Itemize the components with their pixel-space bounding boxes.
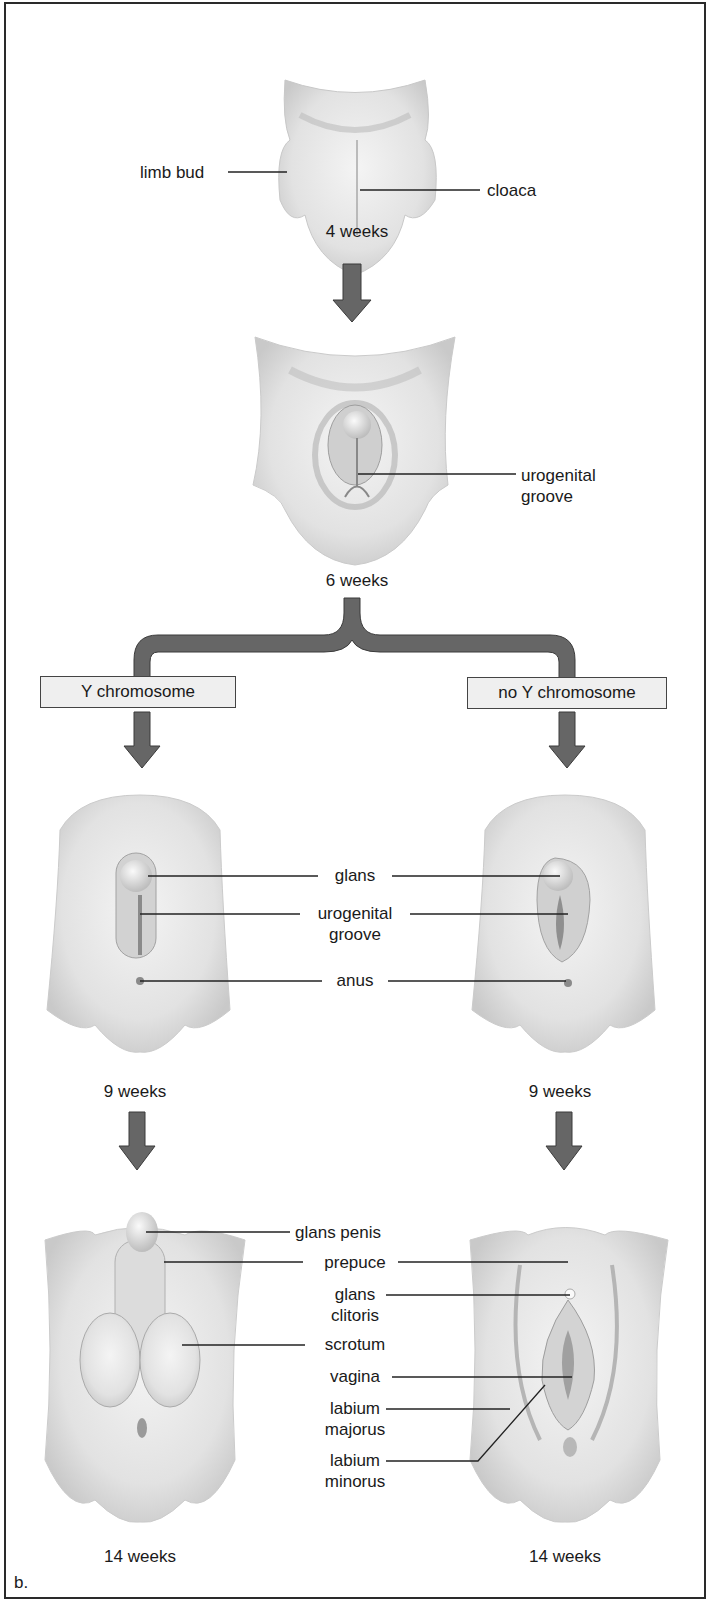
label-labium-majorus: labium majorus [300, 1398, 410, 1440]
down-arrow-icon [119, 1112, 155, 1170]
label-line-2: clitoris [300, 1305, 410, 1326]
label-glans-clitoris: glans clitoris [300, 1284, 410, 1326]
stage-time-9-weeks-female: 9 weeks [505, 1081, 615, 1102]
female-9-weeks-illustration [472, 795, 655, 1052]
label-prepuce: prepuce [300, 1252, 410, 1273]
label-line-2: groove [300, 924, 410, 945]
label-line-2: majorus [300, 1419, 410, 1440]
embryo-4-weeks-illustration [228, 80, 480, 275]
panel-letter: b. [14, 1572, 28, 1593]
stage-time-9-weeks-male: 9 weeks [80, 1081, 190, 1102]
stage-time-6-weeks: 6 weeks [300, 570, 414, 591]
branch-box-y-chromosome: Y chromosome [40, 676, 236, 708]
label-vagina: vagina [300, 1366, 410, 1387]
label-line-1: urogenital [300, 903, 410, 924]
stage-time-4-weeks: 4 weeks [300, 221, 414, 242]
label-line-2: groove [521, 486, 596, 507]
label-line-1: urogenital [521, 465, 596, 486]
label-scrotum: scrotum [300, 1334, 410, 1355]
branch-box-no-y-chromosome: no Y chromosome [467, 677, 667, 709]
label-line-1: labium [300, 1450, 410, 1471]
label-line-1: labium [300, 1398, 410, 1419]
male-9-weeks-illustration [47, 795, 230, 1052]
stage-time-14-weeks-female: 14 weeks [505, 1546, 625, 1567]
label-line-2: minorus [300, 1471, 410, 1492]
label-line-1: glans [300, 1284, 410, 1305]
label-glans-penis: glans penis [295, 1222, 381, 1243]
embryo-6-weeks-illustration [253, 337, 516, 565]
female-14-weeks-illustration [470, 1228, 668, 1523]
label-anus: anus [310, 970, 400, 991]
label-glans: glans [310, 865, 400, 886]
label-urogenital-groove-9wk: urogenital groove [300, 903, 410, 945]
label-urogenital-groove-6wk: urogenital groove [521, 465, 596, 507]
label-labium-minorus: labium minorus [300, 1450, 410, 1492]
label-limb-bud: limb bud [140, 162, 204, 183]
down-arrow-icon [546, 1112, 582, 1170]
male-14-weeks-illustration [45, 1212, 245, 1522]
label-cloaca: cloaca [487, 180, 536, 201]
down-arrow-icon [333, 264, 371, 322]
stage-time-14-weeks-male: 14 weeks [80, 1546, 200, 1567]
